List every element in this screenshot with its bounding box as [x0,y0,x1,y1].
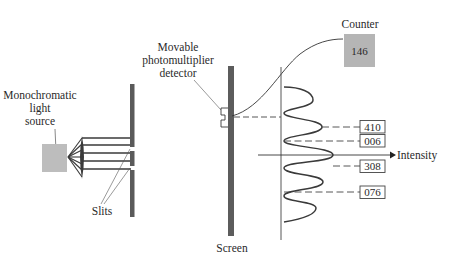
svg-text:410: 410 [364,121,381,133]
svg-text:source: source [25,115,55,127]
svg-text:006: 006 [364,135,381,147]
movable-detector[interactable] [221,108,228,127]
slits-label: Slits [92,205,113,217]
svg-text:308: 308 [364,160,381,172]
light-rays-fan [68,138,82,177]
svg-text:076: 076 [364,186,381,198]
slits-leader-line-1 [101,149,130,204]
counter-label: Counter [341,18,378,30]
intensity-label: Intensity [397,149,437,162]
svg-text:Movable: Movable [158,41,199,53]
reading-box-3: 308 [360,160,385,173]
light-source-box [42,144,67,172]
reading-box-1: 410 [360,121,385,134]
screen [228,66,234,236]
screen-label: Screen [216,242,248,254]
detector-label: Movable photomultiplier detector [142,41,214,79]
svg-text:photomultiplier: photomultiplier [142,54,214,67]
double-slit-diagram: Monochromatic light source Slits Movable… [0,0,459,263]
light-source-label: Monochromatic light source [3,89,76,127]
svg-text:light: light [29,102,51,115]
reading-box-2: 006 [360,135,385,148]
counter-value: 146 [351,45,368,57]
reading-box-4: 076 [360,186,385,199]
slit-barrier [130,84,135,217]
svg-text:Monochromatic: Monochromatic [3,89,76,101]
svg-text:detector: detector [159,67,196,79]
detector-wire [232,39,343,116]
parallel-rays [82,138,131,169]
intensity-arrow-icon [390,152,396,159]
detector-leader-line [194,80,221,110]
interference-pattern-curve [284,87,333,222]
lens [80,136,84,179]
